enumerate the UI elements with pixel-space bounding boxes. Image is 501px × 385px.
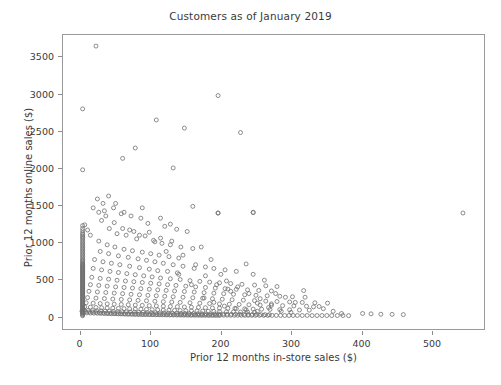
scatter-point bbox=[275, 285, 279, 289]
x-tick-mark bbox=[362, 331, 363, 335]
scatter-point bbox=[222, 304, 226, 308]
scatter-point bbox=[154, 118, 158, 122]
scatter-point bbox=[305, 313, 309, 317]
scatter-point bbox=[95, 290, 99, 294]
scatter-point bbox=[137, 293, 141, 297]
scatter-point bbox=[128, 228, 132, 232]
scatter-point bbox=[149, 252, 153, 256]
scatter-point bbox=[109, 261, 113, 265]
scatter-point bbox=[164, 288, 168, 292]
scatter-point bbox=[262, 278, 266, 282]
y-tick-mark bbox=[58, 131, 62, 132]
x-tick-label: 500 bbox=[423, 338, 441, 349]
scatter-point bbox=[220, 297, 224, 301]
scatter-point bbox=[160, 241, 164, 245]
scatter-point bbox=[303, 295, 307, 299]
scatter-point bbox=[168, 277, 172, 281]
scatter-point bbox=[133, 303, 137, 307]
scatter-point bbox=[150, 275, 154, 279]
scatter-point bbox=[208, 280, 212, 284]
x-axis-label: Prior 12 months in-store sales ($) bbox=[62, 352, 485, 363]
scatter-point bbox=[317, 304, 321, 308]
x-tick-label: 300 bbox=[282, 338, 300, 349]
scatter-point bbox=[461, 211, 465, 215]
scatter-point bbox=[102, 209, 106, 213]
scatter-point bbox=[113, 245, 117, 249]
scatter-point bbox=[171, 166, 175, 170]
scatter-point bbox=[156, 288, 160, 292]
scatter-point bbox=[129, 214, 133, 218]
x-tick-mark bbox=[291, 331, 292, 335]
scatter-point bbox=[313, 301, 317, 305]
scatter-point bbox=[139, 216, 143, 220]
scatter-point bbox=[288, 300, 292, 304]
scatter-point bbox=[199, 245, 203, 249]
scatter-point bbox=[133, 273, 137, 277]
scatter-point bbox=[175, 305, 179, 309]
scatter-point bbox=[244, 262, 248, 266]
scatter-point bbox=[227, 302, 231, 306]
scatter-point bbox=[302, 289, 306, 293]
scatter-point bbox=[202, 291, 206, 295]
scatter-point bbox=[209, 258, 213, 262]
scatter-point bbox=[91, 301, 95, 305]
y-tick-mark bbox=[58, 205, 62, 206]
scatter-point bbox=[401, 313, 405, 317]
scatter-point bbox=[173, 289, 177, 293]
scatter-point bbox=[189, 283, 193, 287]
scatter-point bbox=[104, 214, 108, 218]
scatter-point bbox=[184, 309, 188, 313]
scatter-point bbox=[330, 314, 334, 318]
scatter-point bbox=[171, 295, 175, 299]
scatter-point bbox=[114, 201, 118, 205]
scatter-point bbox=[369, 312, 373, 316]
scatter-point bbox=[140, 280, 144, 284]
scatter-point bbox=[331, 309, 335, 313]
scatter-point bbox=[212, 300, 216, 304]
scatter-point bbox=[136, 298, 140, 302]
scatter-point bbox=[130, 286, 134, 290]
x-tick-label: 100 bbox=[141, 338, 159, 349]
scatter-plot-figure: Customers as of January 2019 05001000150… bbox=[0, 0, 501, 385]
scatter-point bbox=[146, 293, 150, 297]
scatter-point bbox=[107, 252, 111, 256]
scatter-point bbox=[121, 227, 125, 231]
scatter-point bbox=[212, 309, 216, 313]
scatter-point bbox=[379, 312, 383, 316]
scatter-point bbox=[98, 276, 102, 280]
x-tick-mark bbox=[150, 331, 151, 335]
scatter-point bbox=[265, 294, 269, 298]
scatter-point bbox=[132, 280, 136, 284]
scatter-point bbox=[91, 266, 95, 270]
scatter-point bbox=[87, 289, 91, 293]
scatter-point bbox=[184, 284, 188, 288]
scatter-point bbox=[182, 126, 186, 130]
scatter-point bbox=[283, 313, 287, 317]
scatter-point bbox=[191, 204, 195, 208]
scatter-point bbox=[198, 279, 202, 283]
scatter-point bbox=[126, 303, 130, 307]
scatter-point bbox=[326, 301, 330, 305]
scatter-point bbox=[140, 250, 144, 254]
scatter-point bbox=[142, 274, 146, 278]
scatter-point bbox=[147, 230, 151, 234]
scatter-point bbox=[290, 295, 294, 299]
scatter-point bbox=[264, 284, 268, 288]
y-tick-mark bbox=[58, 56, 62, 57]
scatter-point bbox=[293, 300, 297, 304]
scatter-point bbox=[390, 312, 394, 316]
scatter-point bbox=[115, 232, 119, 236]
scatter-point bbox=[307, 308, 311, 312]
scatter-point bbox=[153, 299, 157, 303]
scatter-point bbox=[185, 230, 189, 234]
y-tick-mark bbox=[58, 279, 62, 280]
scatter-point bbox=[320, 314, 324, 318]
scatter-point bbox=[315, 314, 319, 318]
scatter-point bbox=[105, 243, 109, 247]
scatter-point bbox=[108, 269, 112, 273]
scatter-point bbox=[208, 302, 212, 306]
scatter-point bbox=[300, 313, 304, 317]
scatter-point bbox=[312, 305, 316, 309]
scatter-point bbox=[133, 146, 137, 150]
scatter-point bbox=[219, 272, 223, 276]
